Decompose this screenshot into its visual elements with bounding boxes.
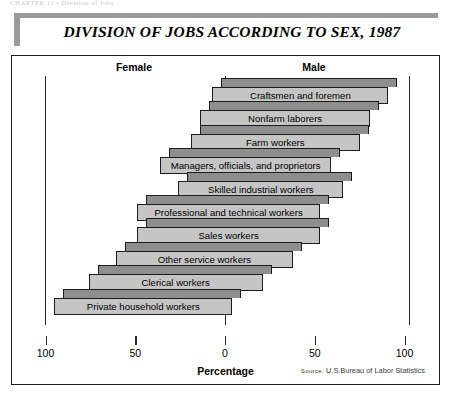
x-axis: 10050050100 Percentage — [12, 336, 439, 382]
bar-row: Sales workers — [137, 218, 320, 244]
bar-row: Skilled industrial workers — [178, 172, 343, 198]
bar-top-face — [146, 218, 329, 227]
bar-row: Farm workers — [191, 125, 360, 151]
bar-row: Professional and technical workers — [137, 195, 320, 221]
bar-row: Other service workers — [116, 242, 294, 268]
x-tick — [46, 336, 47, 345]
bar-row: Nonfarm laborers — [200, 101, 371, 127]
x-tick — [225, 336, 226, 345]
bar-top-face — [125, 242, 303, 251]
bar-top-face — [63, 289, 241, 298]
bar-top-face — [98, 265, 272, 274]
bar-row: Craftsmen and foremen — [212, 78, 388, 104]
bar-row: Managers, officials, and proprietors — [160, 148, 331, 174]
source-note: Source: U.S.Bureau of Labor Statistics — [301, 366, 425, 375]
chart-title: DIVISION OF JOBS ACCORDING TO SEX, 1987 — [26, 19, 438, 45]
bar-top-face — [209, 101, 380, 110]
title-accent-tab — [14, 18, 20, 46]
bar-top-face — [187, 172, 352, 181]
x-tick — [405, 336, 406, 345]
title-rule — [14, 13, 438, 18]
bar-row: Clerical workers — [89, 265, 263, 291]
axis-line-left-100 — [45, 76, 46, 325]
plot-area: Craftsmen and foremenNonfarm laborersFar… — [12, 76, 439, 336]
x-tick-label: 50 — [295, 347, 335, 359]
legend-female: Female — [94, 61, 174, 73]
source-text: U.S.Bureau of Labor Statistics — [326, 366, 425, 375]
x-tick-label: 0 — [205, 347, 245, 359]
chart-frame: Female Male Craftsmen and foremenNonfarm… — [11, 55, 440, 385]
x-tick — [135, 336, 136, 345]
running-head: CHAPTER 11 • Division of Jobs — [10, 0, 114, 7]
x-tick-label: 100 — [26, 347, 66, 359]
source-prefix: Source: — [301, 367, 324, 374]
axis-line-right-100 — [409, 76, 410, 325]
legend-male: Male — [274, 61, 354, 73]
bar-top-face — [169, 148, 340, 157]
bar-top-face — [200, 125, 369, 134]
bar-top-face — [221, 78, 397, 87]
x-tick-label: 50 — [115, 347, 155, 359]
x-tick-label: 100 — [385, 347, 425, 359]
bar-row: Private household workers — [54, 289, 232, 315]
bar-label: Private household workers — [54, 298, 232, 315]
x-tick — [315, 336, 316, 345]
bar-top-face — [146, 195, 329, 204]
